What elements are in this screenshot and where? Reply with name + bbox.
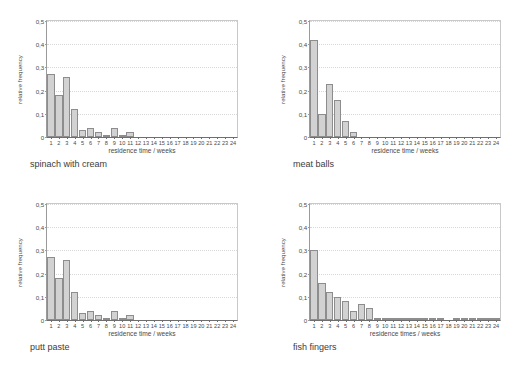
bar: [342, 301, 349, 320]
x-tick-label: 11: [390, 140, 396, 146]
x-tick-mark: [122, 137, 123, 139]
x-tick-mark: [233, 137, 234, 139]
y-tick-label: 0,3: [36, 64, 44, 71]
x-axis-title: residence time / weeks: [46, 147, 238, 154]
x-tick-label: 17: [175, 140, 181, 146]
y-tick-label: 0,3: [299, 247, 307, 254]
x-tick-label: 6: [89, 323, 92, 329]
x-tick-label: 18: [445, 323, 451, 329]
x-tick-mark: [449, 320, 450, 322]
x-tick-mark: [488, 137, 489, 139]
x-tick-mark: [114, 137, 115, 139]
x-tick-mark: [346, 320, 347, 322]
gridline: [310, 274, 500, 275]
x-tick-label: 9: [113, 323, 116, 329]
x-tick-mark: [346, 137, 347, 139]
x-tick-label: 11: [390, 323, 396, 329]
y-tick-label: 0,1: [36, 110, 44, 117]
x-tick-label: 16: [167, 323, 173, 329]
x-tick-label: 3: [65, 323, 68, 329]
plot-area: 0,50,40,30,20,10123456789101112131415161…: [309, 20, 501, 138]
x-tick-label: 17: [438, 140, 444, 146]
y-tick-label: 0,4: [36, 224, 44, 231]
x-tick-label: 6: [352, 323, 355, 329]
x-tick-mark: [480, 137, 481, 139]
x-tick-mark: [114, 320, 115, 322]
x-tick-mark: [393, 320, 394, 322]
y-tick-label: 0,5: [299, 201, 307, 208]
x-tick-label: 9: [113, 140, 116, 146]
x-tick-mark: [138, 320, 139, 322]
bar: [71, 292, 78, 320]
x-tick-label: 24: [493, 140, 499, 146]
chart-panel-fish-fingers: relative frequency 0,50,40,30,20,1012345…: [263, 183, 525, 366]
bar: [87, 128, 94, 137]
y-tick-label: 0,2: [36, 270, 44, 277]
x-tick-label: 12: [398, 323, 404, 329]
x-tick-mark: [67, 137, 68, 139]
x-tick-label: 10: [382, 140, 388, 146]
gridline: [310, 250, 500, 251]
x-tick-label: 13: [406, 140, 412, 146]
x-tick-mark: [472, 320, 473, 322]
x-tick-label: 19: [190, 323, 196, 329]
bar: [318, 114, 325, 137]
x-tick-mark: [59, 137, 60, 139]
y-tick-label: 0,5: [299, 18, 307, 25]
bar: [310, 250, 317, 320]
x-tick-label: 4: [73, 323, 76, 329]
x-tick-label: 23: [222, 323, 228, 329]
x-tick-mark: [146, 320, 147, 322]
x-tick-mark: [217, 320, 218, 322]
chart-panel-meat-balls: relative frequency 0,50,40,30,20,1012345…: [263, 0, 525, 183]
y-tick-mark: [45, 320, 47, 321]
x-tick-mark: [217, 137, 218, 139]
x-tick-mark: [409, 320, 410, 322]
bar: [310, 40, 317, 137]
panel-caption: meat balls: [293, 159, 334, 169]
x-tick-label: 22: [214, 140, 220, 146]
y-tick-label: 0,5: [36, 201, 44, 208]
bar: [358, 304, 365, 320]
x-tick-label: 7: [360, 323, 363, 329]
x-tick-mark: [178, 320, 179, 322]
x-tick-label: 2: [320, 140, 323, 146]
x-tick-mark: [322, 137, 323, 139]
x-tick-label: 14: [151, 140, 157, 146]
x-tick-label: 19: [190, 140, 196, 146]
y-tick-label: 0,4: [299, 41, 307, 48]
x-tick-mark: [361, 137, 362, 139]
x-tick-mark: [441, 137, 442, 139]
x-tick-mark: [162, 137, 163, 139]
x-tick-mark: [75, 137, 76, 139]
x-tick-label: 16: [430, 323, 436, 329]
x-tick-label: 16: [167, 140, 173, 146]
x-tick-mark: [338, 320, 339, 322]
x-tick-mark: [385, 137, 386, 139]
x-tick-mark: [233, 320, 234, 322]
y-axis-title: relative frequency: [277, 203, 287, 321]
x-tick-label: 1: [312, 323, 315, 329]
x-tick-mark: [338, 137, 339, 139]
x-tick-label: 23: [485, 323, 491, 329]
y-tick-label: 0: [41, 134, 44, 141]
x-tick-label: 13: [143, 323, 149, 329]
x-tick-mark: [83, 320, 84, 322]
x-tick-mark: [162, 320, 163, 322]
x-tick-mark: [193, 320, 194, 322]
bar: [334, 297, 341, 320]
x-tick-mark: [433, 320, 434, 322]
x-tick-mark: [83, 137, 84, 139]
x-tick-mark: [178, 137, 179, 139]
x-tick-mark: [456, 320, 457, 322]
x-tick-label: 14: [414, 140, 420, 146]
gridline: [47, 250, 237, 251]
x-tick-label: 21: [469, 140, 475, 146]
y-tick-label: 0,5: [36, 18, 44, 25]
x-tick-label: 14: [151, 323, 157, 329]
x-tick-mark: [314, 137, 315, 139]
x-tick-mark: [170, 137, 171, 139]
x-tick-mark: [138, 137, 139, 139]
x-tick-label: 21: [206, 140, 212, 146]
x-tick-label: 24: [493, 323, 499, 329]
